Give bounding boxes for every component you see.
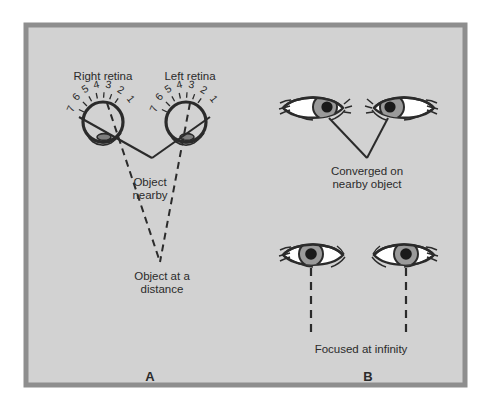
label-object-nearby-line1: Object (133, 176, 167, 188)
panel-a-label: A (145, 369, 155, 384)
panel-b-label: B (363, 369, 372, 384)
caption-converged-line2: nearby object (332, 178, 402, 190)
label-object-nearby-line2: nearby (132, 189, 167, 201)
label-object-distance-line2: distance (141, 283, 184, 295)
label-right-retina: Right retina (74, 70, 133, 82)
caption-converged-line1: Converged on (331, 165, 403, 177)
figure-root: Right retina Left retina (0, 0, 491, 408)
binocular-vision-diagram: Right retina Left retina (0, 0, 491, 408)
label-object-distance-line1: Object at a (134, 270, 190, 282)
caption-focused-at-infinity: Focused at infinity (315, 343, 408, 355)
